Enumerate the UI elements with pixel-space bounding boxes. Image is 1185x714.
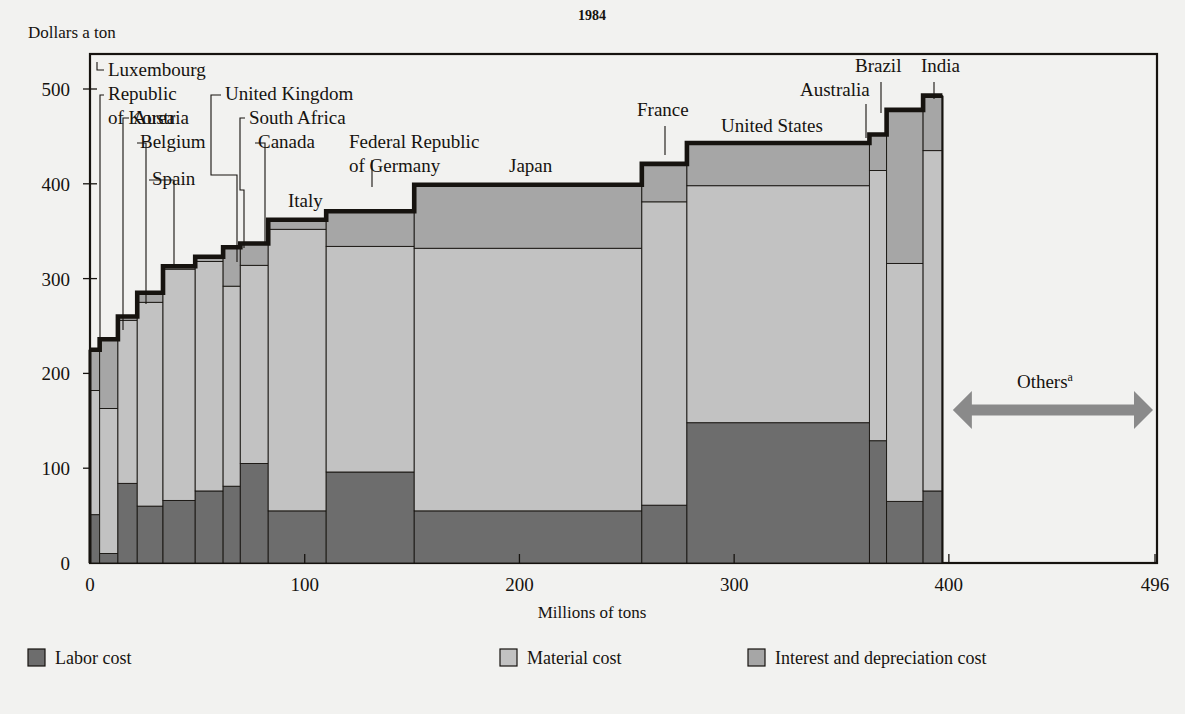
- bar-south-africa[interactable]: [223, 247, 240, 563]
- bar-france[interactable]: [642, 164, 687, 563]
- country-label: Canada: [258, 131, 316, 152]
- labor-segment: [687, 423, 870, 563]
- material-segment: [268, 229, 326, 511]
- y-tick-label: 500: [42, 79, 71, 100]
- country-label: Italy: [288, 190, 323, 211]
- labor-segment: [137, 506, 163, 563]
- x-tick-label: 300: [720, 574, 749, 595]
- bar-canada[interactable]: [240, 244, 268, 563]
- callout-japan: Japan: [509, 155, 553, 176]
- material-segment: [414, 248, 642, 511]
- y-tick-label: 0: [61, 553, 71, 574]
- interest-segment: [687, 143, 870, 186]
- legend-label: Material cost: [527, 648, 621, 668]
- material-segment: [869, 171, 886, 441]
- callout-luxembourg: Luxembourg: [97, 59, 206, 80]
- labor-segment: [642, 505, 687, 563]
- y-tick-label: 400: [42, 174, 71, 195]
- interest-segment: [414, 185, 642, 249]
- bar-united-states[interactable]: [687, 143, 870, 563]
- y-tick-label: 300: [42, 269, 71, 290]
- interest-segment: [869, 135, 886, 171]
- country-label: of Germany: [349, 155, 441, 176]
- others-superscript: a: [1068, 370, 1074, 384]
- bar-australia[interactable]: [869, 135, 886, 563]
- callout-united-states: United States: [721, 115, 823, 136]
- country-label: Federal Republic: [349, 131, 479, 152]
- x-tick-label: 200: [505, 574, 534, 595]
- bar-federal-republic-of-germany[interactable]: [326, 211, 414, 563]
- country-label: South Africa: [249, 107, 346, 128]
- labor-segment: [869, 441, 886, 563]
- material-segment: [100, 408, 118, 553]
- material-segment: [118, 320, 137, 483]
- material-segment: [687, 186, 870, 423]
- bar-spain[interactable]: [163, 266, 195, 563]
- bar-austria[interactable]: [118, 317, 137, 563]
- labor-segment: [100, 554, 118, 563]
- country-label: Australia: [800, 79, 870, 100]
- labor-segment: [223, 486, 240, 563]
- legend-item-2[interactable]: Interest and depreciation cost: [748, 648, 986, 668]
- bar-belgium[interactable]: [137, 293, 163, 563]
- y-tick-label: 100: [42, 458, 71, 479]
- country-label: India: [921, 55, 961, 76]
- material-segment: [923, 151, 942, 491]
- legend-swatch: [28, 649, 45, 666]
- material-segment: [240, 265, 268, 463]
- country-label: Belgium: [140, 131, 206, 152]
- material-segment: [195, 262, 223, 491]
- country-label: United Kingdom: [225, 83, 353, 104]
- bar-india[interactable]: [923, 96, 942, 563]
- x-tick-label: 400: [935, 574, 964, 595]
- interest-segment: [923, 96, 942, 151]
- others-label: Othersa: [1017, 370, 1074, 392]
- bar-italy[interactable]: [268, 220, 326, 563]
- x-tick-label: 100: [290, 574, 319, 595]
- labor-segment: [923, 491, 942, 563]
- material-segment: [642, 202, 687, 505]
- chart-page: 1984Dollars a ton01002003004005000100200…: [0, 0, 1185, 714]
- bar-japan[interactable]: [414, 185, 642, 563]
- labor-segment: [326, 472, 414, 563]
- chart-title: 1984: [578, 8, 606, 23]
- legend-label: Interest and depreciation cost: [775, 648, 986, 668]
- interest-segment: [887, 110, 924, 264]
- bar-united-kingdom[interactable]: [195, 257, 223, 563]
- y-tick-label: 200: [42, 363, 71, 384]
- country-label: Republic: [108, 83, 177, 104]
- stacked-bar-chart: 1984Dollars a ton01002003004005000100200…: [0, 0, 1185, 714]
- country-label: United States: [721, 115, 823, 136]
- x-axis-title-label: Millions of tons: [538, 603, 647, 622]
- labor-segment: [268, 511, 326, 563]
- material-segment: [326, 246, 414, 472]
- material-segment: [223, 286, 240, 486]
- bar-republic-of-korea[interactable]: [100, 339, 118, 563]
- country-label: Brazil: [855, 55, 901, 76]
- material-segment: [137, 302, 163, 506]
- legend-item-0[interactable]: Labor cost: [28, 648, 131, 668]
- interest-segment: [100, 339, 118, 408]
- interest-segment: [326, 211, 414, 246]
- labor-segment: [887, 501, 924, 563]
- labor-segment: [240, 463, 268, 563]
- material-segment: [887, 263, 924, 501]
- interest-segment: [642, 164, 687, 202]
- interest-segment: [223, 247, 240, 286]
- country-label: Japan: [509, 155, 553, 176]
- legend-swatch: [500, 649, 517, 666]
- bar-brazil[interactable]: [887, 110, 924, 563]
- y-axis-title-label: Dollars a ton: [28, 23, 116, 42]
- legend-swatch: [748, 649, 765, 666]
- legend-label: Labor cost: [55, 648, 131, 668]
- material-segment: [163, 269, 195, 500]
- callout-italy: Italy: [288, 190, 323, 211]
- x-tick-label: 496: [1141, 574, 1170, 595]
- labor-segment: [163, 500, 195, 563]
- labor-segment: [195, 491, 223, 563]
- country-label: Luxembourg: [108, 59, 206, 80]
- country-label: France: [637, 99, 689, 120]
- x-tick-label: 0: [85, 574, 95, 595]
- country-label: Austria: [133, 107, 190, 128]
- labor-segment: [414, 511, 642, 563]
